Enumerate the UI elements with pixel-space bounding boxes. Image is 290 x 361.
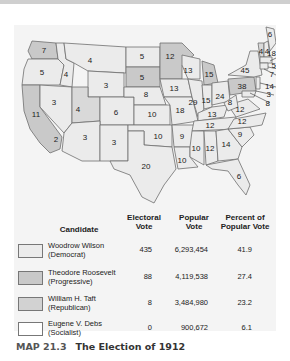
- svg-text:12: 12: [166, 52, 175, 61]
- svg-text:3: 3: [104, 81, 109, 90]
- svg-text:10: 10: [148, 110, 157, 119]
- svg-text:7: 7: [270, 70, 275, 79]
- legend-row-debs: Eugene V. Debs(Socialist) 0 900,672 6.1: [14, 319, 276, 341]
- percent-vote: 27.4: [232, 272, 252, 281]
- svg-text:4: 4: [64, 70, 69, 79]
- candidate-name: Theodore Roosevelt(Progressive): [48, 268, 116, 286]
- electoral-vote: 88: [130, 272, 152, 281]
- svg-text:12: 12: [206, 144, 215, 153]
- svg-text:13: 13: [208, 110, 217, 119]
- svg-text:13: 13: [170, 84, 179, 93]
- electoral-vote: 435: [130, 245, 152, 254]
- header-candidate: Candidate: [44, 225, 114, 234]
- svg-text:15: 15: [202, 96, 211, 105]
- svg-text:8: 8: [228, 98, 233, 107]
- svg-text:14: 14: [222, 140, 231, 149]
- svg-text:6: 6: [114, 108, 119, 117]
- svg-text:3: 3: [83, 133, 88, 142]
- svg-text:12: 12: [238, 117, 247, 126]
- popular-vote: 3,484,980: [164, 298, 208, 307]
- caption-number: MAP 21.3: [16, 341, 67, 352]
- svg-text:5: 5: [272, 61, 276, 70]
- state-north-carolina: [228, 113, 266, 129]
- state-connecticut: [260, 63, 268, 69]
- legend-row-roosevelt: Theodore Roosevelt(Progressive) 88 4,119…: [14, 268, 276, 290]
- caption-title: The Election of 1912: [76, 341, 186, 352]
- svg-text:3: 3: [112, 138, 117, 147]
- svg-text:8: 8: [144, 90, 149, 99]
- popular-vote: 4,119,538: [164, 272, 208, 281]
- svg-text:12: 12: [236, 105, 245, 114]
- map-caption: MAP 21.3The Election of 1912: [16, 341, 185, 352]
- svg-text:6: 6: [237, 172, 242, 181]
- svg-text:2: 2: [54, 135, 59, 144]
- svg-text:20: 20: [142, 162, 151, 171]
- state-florida: [206, 159, 250, 195]
- swatch-wilson: [18, 244, 43, 258]
- svg-text:7: 7: [42, 46, 47, 55]
- svg-text:4: 4: [259, 47, 264, 56]
- electoral-vote: 0: [130, 323, 152, 332]
- svg-text:5: 5: [140, 73, 145, 82]
- svg-text:9: 9: [180, 132, 185, 141]
- percent-vote: 6.1: [232, 323, 252, 332]
- svg-text:8: 8: [266, 99, 271, 108]
- candidate-name: William H. Taft(Republican): [48, 294, 96, 312]
- svg-text:9: 9: [238, 130, 243, 139]
- svg-text:3: 3: [52, 98, 57, 107]
- svg-text:18: 18: [267, 49, 276, 58]
- swatch-taft: [18, 297, 43, 311]
- svg-text:6: 6: [268, 30, 273, 39]
- svg-text:15: 15: [205, 70, 214, 79]
- percent-vote: 41.9: [232, 245, 252, 254]
- percent-vote: 23.2: [232, 298, 252, 307]
- svg-text:10: 10: [192, 144, 201, 153]
- popular-vote: 900,672: [164, 323, 208, 332]
- legend-row-wilson: Woodrow Wilson(Democrat) 435 6,293,454 4…: [14, 241, 276, 263]
- svg-text:10: 10: [154, 132, 163, 141]
- electoral-vote: 8: [130, 298, 152, 307]
- svg-text:38: 38: [238, 82, 247, 91]
- svg-text:12: 12: [206, 121, 215, 130]
- swatch-roosevelt: [18, 271, 43, 285]
- svg-text:4: 4: [88, 56, 93, 65]
- svg-text:45: 45: [241, 66, 250, 75]
- header-electoral-vote: ElectoralVote: [122, 213, 166, 231]
- svg-text:5: 5: [40, 68, 45, 77]
- svg-text:10: 10: [178, 156, 187, 165]
- header-percent-popular: Percent ofPopular Vote: [214, 213, 276, 231]
- svg-text:4: 4: [76, 105, 81, 114]
- svg-text:11: 11: [32, 110, 41, 119]
- svg-text:18: 18: [176, 106, 185, 115]
- state-new-jersey: [256, 77, 260, 89]
- legend-row-taft: William H. Taft(Republican) 8 3,484,980 …: [14, 294, 276, 316]
- state-maryland: [242, 91, 256, 97]
- candidate-name: Eugene V. Debs(Socialist): [48, 319, 102, 337]
- swatch-debs: [18, 322, 43, 336]
- us-electoral-map: 7 5 11 4 3 4 3 4 6 3 3 2 5 5 8 10 10 20 …: [14, 25, 276, 213]
- svg-text:3: 3: [267, 90, 272, 99]
- svg-text:5: 5: [140, 52, 145, 61]
- candidate-name: Woodrow Wilson(Democrat): [48, 241, 104, 259]
- top-border: [0, 0, 290, 4]
- svg-text:29: 29: [189, 98, 198, 107]
- popular-vote: 6,293,454: [164, 245, 208, 254]
- svg-text:24: 24: [216, 92, 225, 101]
- svg-text:13: 13: [184, 66, 193, 75]
